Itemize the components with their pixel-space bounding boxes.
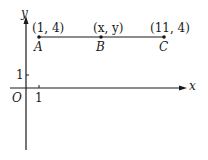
origin-label: O [12,92,22,104]
point-a [37,35,41,39]
x-tick-label: 1 [35,92,43,104]
point-b-coords: (x, y) [93,22,124,34]
point-a-label: A [34,41,43,53]
coordinate-diagram: y x O 1 1 (1, 4) (x, y) (11, 4) A B C [0,0,208,160]
point-c-coords: (11, 4) [150,22,190,34]
x-axis-label: x [189,80,196,92]
x-axis-arrowhead-icon [179,86,187,91]
point-b [99,35,103,39]
y-tick-label: 1 [16,69,24,81]
point-c-label: C [159,41,168,53]
point-b-label: B [96,41,105,53]
y-axis-label: y [21,7,28,19]
point-c [162,35,166,39]
point-a-coords: (1, 4) [32,22,64,34]
